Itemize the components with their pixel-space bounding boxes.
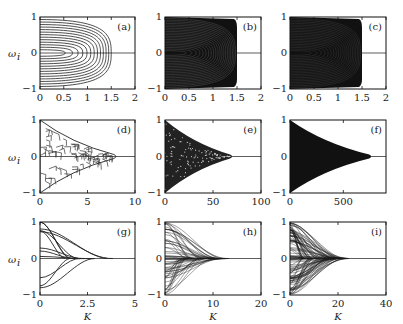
y-axis-label-subscript: i bbox=[17, 51, 20, 62]
y-tick-label: −1 bbox=[272, 187, 287, 198]
x-axis-label: K bbox=[333, 311, 342, 322]
panel-label: (g) bbox=[117, 226, 131, 237]
x-tick-label: 0 bbox=[37, 92, 43, 103]
x-tick-label: 1.5 bbox=[354, 92, 370, 103]
y-tick-label: −1 bbox=[147, 83, 162, 94]
x-tick-label: 40 bbox=[380, 298, 393, 309]
y-tick-label: 0 bbox=[31, 47, 37, 58]
x-tick-label: 10 bbox=[129, 196, 142, 207]
x-tick-label: 0 bbox=[287, 92, 293, 103]
x-tick-label: 1 bbox=[335, 92, 341, 103]
y-tick-label: 1 bbox=[156, 11, 162, 22]
y-tick-label: 0 bbox=[281, 47, 287, 58]
panel-i: 10−102040(i)K bbox=[272, 216, 392, 322]
x-tick-label: 0 bbox=[162, 92, 168, 103]
y-tick-label: 0 bbox=[156, 47, 162, 58]
y-tick-label: 0 bbox=[281, 253, 287, 264]
y-tick-label: −1 bbox=[147, 187, 162, 198]
y-axis-label: ω bbox=[8, 48, 16, 59]
x-tick-label: 2 bbox=[258, 92, 264, 103]
y-tick-label: 1 bbox=[281, 114, 287, 125]
x-tick-label: 1 bbox=[210, 92, 216, 103]
y-axis-label: ω bbox=[8, 152, 16, 163]
panel-label: (c) bbox=[369, 21, 383, 32]
x-tick-label: 0.5 bbox=[306, 92, 322, 103]
y-tick-label: 0 bbox=[156, 253, 162, 264]
y-tick-label: −1 bbox=[22, 187, 37, 198]
x-tick-label: 500 bbox=[334, 196, 353, 207]
x-tick-label: 1 bbox=[84, 92, 90, 103]
y-tick-label: 1 bbox=[31, 216, 37, 227]
y-tick-label: −1 bbox=[147, 289, 162, 300]
x-tick-label: 0 bbox=[287, 196, 293, 207]
x-tick-label: 5 bbox=[132, 298, 138, 309]
y-tick-label: 0 bbox=[31, 253, 37, 264]
panel-e: 10−1050100(e) bbox=[147, 114, 270, 207]
panel-b: 10−100.511.52(b) bbox=[147, 11, 264, 103]
panel-label: (i) bbox=[371, 226, 382, 237]
y-tick-label: −1 bbox=[22, 83, 37, 94]
x-tick-label: 2.5 bbox=[80, 298, 96, 309]
y-tick-label: 1 bbox=[281, 216, 287, 227]
panel-label: (e) bbox=[243, 124, 257, 135]
figure-canvas: 10−100.511.52(a)ωi10−100.511.52(b)10−100… bbox=[0, 0, 403, 324]
y-tick-label: 1 bbox=[156, 114, 162, 125]
panel-d: 10−10510(d)ωi bbox=[8, 114, 141, 207]
y-tick-label: −1 bbox=[272, 289, 287, 300]
panel-g: 10−102.55(g)ωiK bbox=[8, 216, 138, 322]
panel-a: 10−100.511.52(a)ωi bbox=[8, 11, 138, 103]
x-tick-label: 2 bbox=[132, 92, 138, 103]
panel-label: (a) bbox=[117, 21, 131, 32]
x-axis-label: K bbox=[208, 311, 217, 322]
x-axis-label: K bbox=[83, 311, 92, 322]
x-tick-label: 100 bbox=[251, 196, 270, 207]
panel-label: (d) bbox=[117, 124, 131, 135]
y-tick-label: 0 bbox=[281, 151, 287, 162]
x-tick-label: 50 bbox=[207, 196, 220, 207]
y-tick-label: 1 bbox=[281, 11, 287, 22]
x-tick-label: 0 bbox=[37, 298, 43, 309]
y-tick-label: 1 bbox=[31, 11, 37, 22]
y-tick-label: 0 bbox=[156, 151, 162, 162]
x-tick-label: 10 bbox=[207, 298, 220, 309]
y-tick-label: 0 bbox=[31, 151, 37, 162]
y-axis-label-subscript: i bbox=[17, 155, 20, 166]
x-tick-label: 0 bbox=[287, 298, 293, 309]
x-tick-label: 1.5 bbox=[229, 92, 245, 103]
y-tick-label: 1 bbox=[31, 114, 37, 125]
panel-label: (h) bbox=[243, 226, 257, 237]
y-tick-label: −1 bbox=[22, 289, 37, 300]
x-tick-label: 0 bbox=[37, 196, 43, 207]
x-tick-label: 0 bbox=[162, 298, 168, 309]
x-tick-label: 5 bbox=[84, 196, 90, 207]
y-axis-label: ω bbox=[8, 254, 16, 265]
panel-h: 10−101020(h)K bbox=[147, 216, 267, 322]
panel-label: (f) bbox=[370, 124, 382, 135]
panel-c: 10−100.511.52(c) bbox=[272, 11, 389, 103]
panel-f: 10−10500(f) bbox=[272, 114, 386, 207]
x-tick-label: 1.5 bbox=[103, 92, 119, 103]
panel-label: (b) bbox=[243, 21, 257, 32]
y-tick-label: 1 bbox=[156, 216, 162, 227]
y-axis-label-subscript: i bbox=[17, 257, 20, 268]
x-tick-label: 20 bbox=[332, 298, 345, 309]
x-tick-label: 2 bbox=[383, 92, 389, 103]
x-tick-label: 20 bbox=[255, 298, 268, 309]
y-tick-label: −1 bbox=[272, 83, 287, 94]
x-tick-label: 0 bbox=[162, 196, 168, 207]
x-tick-label: 0.5 bbox=[56, 92, 72, 103]
x-tick-label: 0.5 bbox=[181, 92, 197, 103]
